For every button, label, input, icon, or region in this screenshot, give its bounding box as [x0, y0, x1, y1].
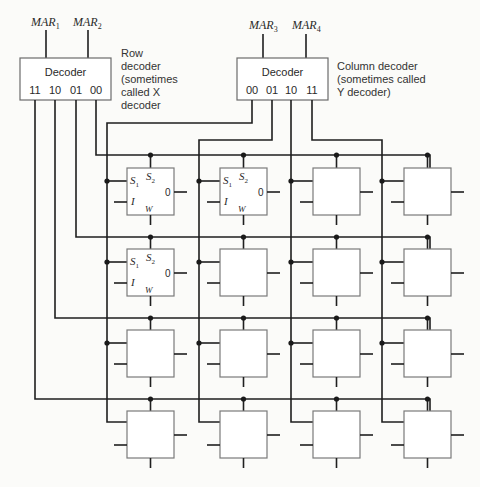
memory-cell-box — [220, 249, 267, 296]
col-output-label-00: 00 — [246, 84, 258, 96]
row-output-label-01: 01 — [70, 84, 82, 96]
memory-cell — [391, 396, 464, 468]
column-junction-dot — [104, 340, 109, 345]
column-caption-line: (sometimes called — [337, 73, 426, 86]
column-line-10 — [291, 100, 313, 422]
memory-cell-box — [313, 249, 360, 296]
memory-cell-box — [404, 168, 451, 215]
output-label: 0 — [165, 187, 171, 198]
row-caption-line: (sometimes — [121, 73, 178, 86]
column-junction-dot — [379, 340, 384, 345]
memory-cell: S1S20IW — [104, 234, 187, 306]
memory-cell-box — [404, 411, 451, 458]
column-decoder: Decoder 00 01 10 11 MAR3 MAR4 — [237, 18, 328, 100]
column-junction-dot — [196, 259, 201, 264]
memory-cell-box — [404, 330, 451, 377]
memory-cell — [288, 152, 373, 225]
row-junction-dot — [241, 315, 246, 320]
memory-cell: S1S20IW — [196, 152, 280, 225]
memory-cell-grid: S1S20IWS1S20IWS1S20IW — [104, 152, 464, 468]
memory-cell — [379, 234, 464, 306]
memory-cell — [104, 315, 187, 387]
row-caption-line: decoder — [121, 99, 178, 112]
memory-cell — [379, 315, 464, 387]
memory-cell-box — [404, 249, 451, 296]
column-caption-line: Column decoder — [337, 60, 426, 73]
row-junction-dot — [148, 315, 153, 320]
column-caption-line: Y decoder) — [337, 86, 426, 99]
column-decoder-caption: Column decoder(sometimes calledY decoder… — [337, 60, 426, 99]
memory-cell-box — [220, 330, 267, 377]
row-junction-dot — [425, 396, 430, 401]
memory-cell-box — [313, 168, 360, 215]
memory-cell-box — [220, 411, 267, 458]
column-junction-dot — [196, 340, 201, 345]
mar1-label: MAR1 — [30, 15, 60, 31]
output-label: 0 — [165, 268, 171, 279]
row-decoder-title: Decoder — [45, 66, 87, 78]
row-junction-dot — [334, 152, 339, 157]
row-decoder: Decoder 11 10 01 00 MAR1 MAR2 — [20, 15, 111, 100]
column-decoder-title: Decoder — [262, 66, 304, 78]
mar4-label: MAR4 — [291, 18, 321, 34]
column-junction-dot — [104, 178, 109, 183]
column-junction-dot — [288, 340, 293, 345]
column-junction-dot — [104, 259, 109, 264]
row-junction-dot — [241, 152, 246, 157]
row-junction-dot — [148, 152, 153, 157]
memory-cell — [288, 234, 373, 306]
column-junction-dot — [379, 178, 384, 183]
row-junction-dot — [425, 152, 430, 157]
row-caption-line: decoder — [121, 60, 178, 73]
memory-cell — [288, 315, 373, 387]
col-output-label-10: 10 — [285, 84, 297, 96]
column-junction-dot — [288, 259, 293, 264]
row-junction-dot — [334, 315, 339, 320]
memory-cell-box — [127, 330, 174, 377]
row-junction-dot — [241, 234, 246, 239]
row-junction-dot — [425, 234, 430, 239]
row-output-label-00: 00 — [90, 84, 102, 96]
mar3-label: MAR3 — [248, 18, 278, 34]
row-decoder-caption: Rowdecoder(sometimescalled Xdecoder — [121, 47, 178, 112]
memory-cell-box — [127, 411, 174, 458]
memory-cell — [196, 315, 280, 387]
row-junction-dot — [334, 234, 339, 239]
memory-cell — [196, 234, 280, 306]
row-output-label-11: 11 — [29, 84, 40, 96]
memory-cell: S1S20IW — [104, 152, 187, 225]
mar2-label: MAR2 — [72, 15, 102, 31]
memory-cell-box — [313, 330, 360, 377]
memory-cell — [300, 396, 373, 468]
column-junction-dot — [379, 259, 384, 264]
row-junction-dot — [241, 396, 246, 401]
memory-cell — [114, 396, 187, 468]
row-junction-dot — [425, 315, 430, 320]
row-junction-dot — [148, 234, 153, 239]
row-caption-line: Row — [121, 47, 178, 60]
memory-cell — [207, 396, 280, 468]
col-output-label-11: 11 — [306, 84, 317, 96]
row-caption-line: called X — [121, 86, 178, 99]
column-junction-dot — [196, 178, 201, 183]
memory-cell-box — [313, 411, 360, 458]
output-label: 0 — [258, 187, 264, 198]
col-output-label-01: 01 — [266, 84, 278, 96]
row-output-label-10: 10 — [49, 84, 61, 96]
column-junction-dot — [288, 178, 293, 183]
row-junction-dot — [334, 396, 339, 401]
row-junction-dot — [148, 396, 153, 401]
memory-cell — [379, 152, 464, 225]
